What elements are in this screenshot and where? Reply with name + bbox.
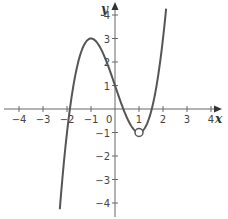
y-tick-label: −2	[95, 151, 110, 162]
y-tick-label: −1	[95, 128, 110, 139]
y-tick-label: −3	[95, 175, 110, 186]
axes: x y 0	[4, 2, 223, 217]
x-tick-label: −1	[84, 114, 99, 125]
x-tick-label: 3	[184, 114, 190, 125]
function-graph: x y 0 −4−3−2−11234 4321−1−2−3−4	[0, 0, 228, 219]
x-tick-label: 4	[208, 114, 214, 125]
x-tick-label: −2	[60, 114, 75, 125]
y-tick-label: 3	[104, 34, 110, 45]
y-tick-label: 4	[104, 10, 110, 21]
open-circle-marker	[135, 129, 143, 137]
y-tick-label: 1	[104, 81, 110, 92]
y-axis-arrow-icon	[112, 2, 119, 10]
x-tick-label: 2	[160, 114, 166, 125]
x-axis-label: x	[214, 112, 223, 126]
x-tick-label: 1	[136, 114, 142, 125]
origin-label: 0	[106, 114, 112, 125]
y-tick-label: −4	[95, 198, 110, 209]
x-tick-label: −4	[12, 114, 27, 125]
x-tick-label: −3	[36, 114, 51, 125]
